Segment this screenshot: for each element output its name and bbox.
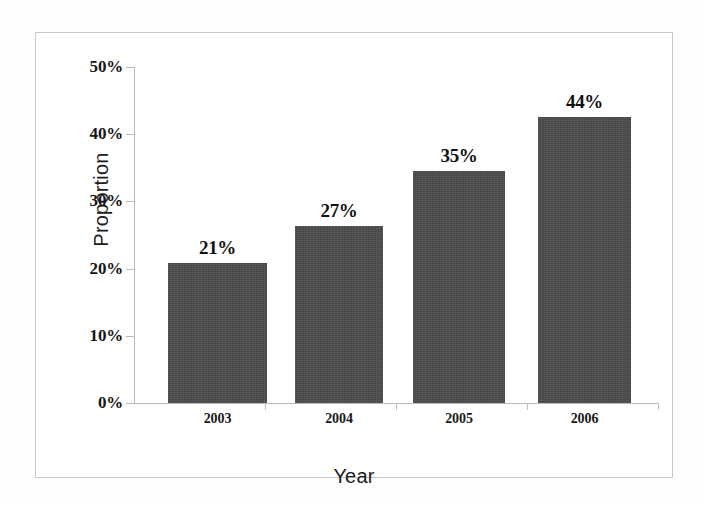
y-axis-tick-mark xyxy=(126,67,134,68)
bar-value-label: 44% xyxy=(566,91,603,113)
x-axis-category-2006: 2006 xyxy=(571,411,599,427)
y-axis-tick-label: 10% xyxy=(90,326,123,346)
bar-2006[interactable]: 44% xyxy=(538,117,631,403)
y-axis-line xyxy=(134,67,135,404)
x-axis-tick-mark xyxy=(265,403,266,410)
figure-frame: Proportion 0%10%20%30%40%50% 21%27%35%44… xyxy=(35,32,673,478)
bar-2005[interactable]: 35% xyxy=(413,171,505,403)
bar-value-label: 35% xyxy=(440,145,477,167)
y-axis-tick-mark xyxy=(126,134,134,135)
bar-value-label: 27% xyxy=(320,200,357,222)
plot-area: 0%10%20%30%40%50% 21%27%35%44% 200320042… xyxy=(134,67,658,403)
page-background: Proportion 0%10%20%30%40%50% 21%27%35%44… xyxy=(0,0,703,505)
x-axis-category-2004: 2004 xyxy=(325,411,353,427)
x-axis-tick-mark xyxy=(658,403,659,410)
x-axis-category-2003: 2003 xyxy=(204,411,232,427)
bar-value-label: 21% xyxy=(199,237,236,259)
bar-2004[interactable]: 27% xyxy=(295,226,383,403)
y-axis-tick-label: 0% xyxy=(98,393,123,413)
y-axis-tick-label: 50% xyxy=(90,57,123,77)
bar-2003[interactable]: 21% xyxy=(168,263,267,403)
y-axis-tick-mark xyxy=(126,201,134,202)
x-axis-tick-mark xyxy=(396,403,397,410)
y-axis-tick-mark xyxy=(126,403,134,404)
x-axis-category-2005: 2005 xyxy=(445,411,473,427)
y-axis-tick-label: 30% xyxy=(90,191,123,211)
x-axis-tick-mark xyxy=(527,403,528,410)
y-axis-tick-label: 40% xyxy=(90,124,123,144)
x-axis-title: Year xyxy=(36,465,672,488)
y-axis-tick-mark xyxy=(126,336,134,337)
y-axis-tick-mark xyxy=(126,269,134,270)
y-axis-tick-label: 20% xyxy=(90,259,123,279)
